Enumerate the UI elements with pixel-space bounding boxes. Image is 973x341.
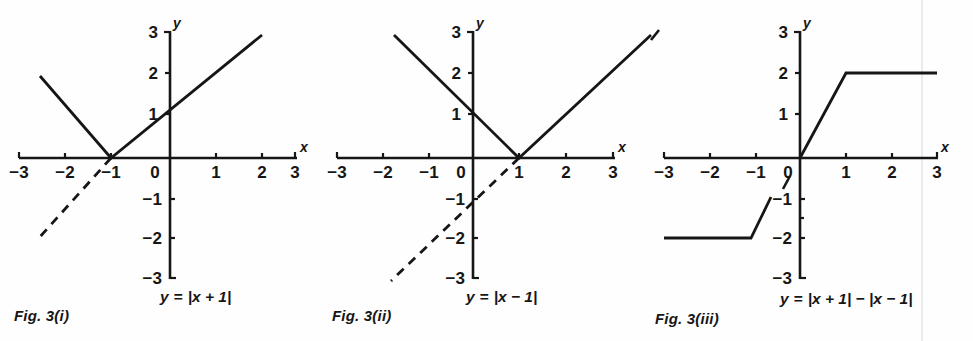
curve-solid-primary	[394, 35, 651, 158]
figure-panel-1: x y −3 −2 −1 0 1 2 3 3 2 1 −1 −2 −3 y=|x…	[0, 0, 325, 341]
graph-panel-2: x y −3 −2 −1 0 1 2 3 3 2 1 −1 −2 −3 y=|x…	[318, 0, 658, 341]
curve-solid-primary	[40, 35, 262, 158]
y-axis-name: y	[172, 15, 182, 31]
curve-upper-branch	[800, 73, 937, 158]
figure-caption: Fig. 3(ii)	[332, 307, 392, 324]
y-tick-label--3: −3	[143, 269, 162, 288]
y-tick-label--1: −1	[773, 190, 792, 209]
y-tick-label--1: −1	[143, 190, 162, 209]
x-tick-label--3: −3	[327, 163, 346, 182]
curve-dashed-reflection	[391, 158, 519, 281]
y-tick-label--1: −1	[446, 190, 465, 209]
y-tick-label-2: 2	[149, 64, 158, 83]
y-axis-name: y	[802, 15, 812, 31]
x-tick-label-3: 3	[932, 163, 941, 182]
y-tick-label-3: 3	[149, 23, 158, 42]
figure-panel-3: x y −3 −2 −1 0 1 2 3 3 2 1 −1 −2 −3 y=|x…	[645, 0, 970, 341]
equation-label: y=|x − 1|	[465, 288, 537, 305]
graph-panel-1: x y −3 −2 −1 0 1 2 3 3 2 1 −1 −2 −3 y=|x…	[0, 0, 325, 341]
x-tick-label--1: −1	[419, 163, 438, 182]
x-tick-label--2: −2	[373, 163, 392, 182]
equation-rhs: |x + 1| − |x − 1|	[808, 290, 913, 307]
equation-label: y=|x + 1| − |x − 1|	[779, 290, 913, 307]
x-tick-label-2: 2	[561, 163, 570, 182]
x-tick-label-1: 1	[841, 163, 850, 182]
equation-eq: =	[794, 290, 803, 307]
y-tick-label-3: 3	[452, 23, 461, 42]
x-tick-label--3: −3	[654, 163, 673, 182]
equation-label: y=|x + 1|	[159, 288, 231, 305]
x-tick-label--2: −2	[700, 163, 719, 182]
equation-eq: =	[174, 288, 183, 305]
x-tick-label-2: 2	[887, 163, 896, 182]
x-tick-label-3: 3	[290, 163, 299, 182]
x-axis-name: x	[940, 139, 950, 155]
graph-panel-3: x y −3 −2 −1 0 1 2 3 3 2 1 −1 −2 −3 y=|x…	[645, 0, 973, 341]
x-tick-label-2: 2	[257, 163, 266, 182]
x-tick-label-1: 1	[514, 163, 523, 182]
y-tick-label-1: 1	[779, 105, 788, 124]
y-tick-label--2: −2	[773, 229, 792, 248]
x-tick-label--2: −2	[55, 163, 74, 182]
x-tick-label-0: 0	[150, 163, 159, 182]
figure-sheet: x y −3 −2 −1 0 1 2 3 3 2 1 −1 −2 −3 y=|x…	[0, 0, 973, 341]
figure-caption: Fig. 3(iii)	[655, 310, 719, 327]
x-tick-label--3: −3	[9, 163, 28, 182]
y-tick-label-1: 1	[452, 105, 461, 124]
x-tick-label-0: 0	[456, 163, 465, 182]
equation-eq: =	[480, 288, 489, 305]
x-axis-name: x	[617, 139, 627, 155]
y-tick-label-2: 2	[452, 64, 461, 83]
y-tick-label--2: −2	[143, 229, 162, 248]
neighbour-line-fragment	[651, 30, 659, 40]
x-tick-label--1: −1	[746, 163, 765, 182]
y-tick-label--3: −3	[446, 269, 465, 288]
equation-rhs: |x − 1|	[494, 288, 538, 305]
x-tick-label-3: 3	[608, 163, 617, 182]
equation-lhs: y	[159, 288, 170, 305]
y-tick-label-2: 2	[779, 64, 788, 83]
y-tick-label-3: 3	[779, 23, 788, 42]
equation-rhs: |x + 1|	[188, 288, 232, 305]
equation-lhs: y	[465, 288, 476, 305]
equation-lhs: y	[779, 290, 790, 307]
curve-lower-branch	[664, 197, 771, 238]
y-tick-label--3: −3	[773, 269, 792, 288]
x-tick-label-1: 1	[211, 163, 220, 182]
x-tick-label--1: −1	[101, 163, 120, 182]
x-axis-name: x	[299, 139, 309, 155]
y-tick-label--2: −2	[446, 229, 465, 248]
figure-panel-2: x y −3 −2 −1 0 1 2 3 3 2 1 −1 −2 −3 y=|x…	[318, 0, 643, 341]
y-axis-name: y	[475, 15, 485, 31]
figure-caption: Fig. 3(i)	[14, 307, 69, 324]
